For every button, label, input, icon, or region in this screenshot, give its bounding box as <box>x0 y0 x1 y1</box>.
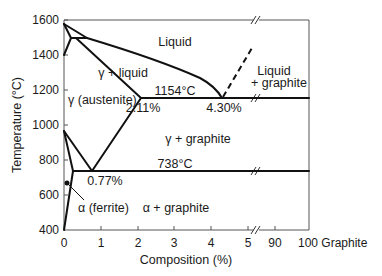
annotation-eutectoid-temp: 738°C <box>158 157 193 171</box>
annotation-max-solubility: 2.11% <box>126 101 161 115</box>
label-liquid-graphite-2: + graphite <box>251 76 307 90</box>
y-tick-1000: 1000 <box>32 118 59 132</box>
y-axis-labels: 1600 1400 1200 1000 800 600 400 <box>32 13 59 237</box>
y-tick-1200: 1200 <box>32 83 59 97</box>
x-tick-0: 0 <box>61 236 68 250</box>
x-tick-2: 2 <box>135 236 142 250</box>
annotation-eutectic-temp: 1154°C <box>155 84 196 98</box>
x-axis-labels: 0 1 2 3 4 5 90 100 Graphite <box>61 236 368 250</box>
label-gamma-liquid: γ + liquid <box>98 66 148 80</box>
x-tick-1: 1 <box>98 236 105 250</box>
x-tick-3: 3 <box>171 236 178 250</box>
phase-boundaries <box>64 24 309 230</box>
x-axis-title: Composition (%) <box>140 253 232 267</box>
graphite-liquidus-dashed <box>223 48 252 97</box>
label-liquid: Liquid <box>158 35 191 49</box>
x-tick-100-graphite: 100 Graphite <box>298 236 368 250</box>
x-tick-4: 4 <box>208 236 215 250</box>
x-tick-90: 90 <box>268 236 282 250</box>
ferrite-solvus-line <box>64 131 73 230</box>
x-tick-5: 5 <box>245 236 252 250</box>
annotation-eutectic-comp: 4.30% <box>206 101 241 115</box>
delta-region-boundaries <box>64 24 87 55</box>
liquidus-line <box>64 24 222 98</box>
annotation-eutectoid-comp: 0.77% <box>87 174 122 188</box>
y-tick-1600: 1600 <box>32 13 59 27</box>
axis-break-marks <box>251 16 260 234</box>
x-axis-ticks <box>101 226 275 230</box>
phase-diagram: 1600 1400 1200 1000 800 600 400 0 1 2 3 … <box>0 0 382 276</box>
y-axis-title: Temperature (°C) <box>10 77 24 173</box>
y-tick-600: 600 <box>39 188 59 202</box>
y-tick-800: 800 <box>39 153 59 167</box>
y-tick-400: 400 <box>39 223 59 237</box>
y-tick-1400: 1400 <box>32 48 59 62</box>
label-gamma-graphite: γ + graphite <box>165 132 231 146</box>
plot-frame <box>64 20 309 230</box>
label-ferrite: α (ferrite) <box>78 201 129 215</box>
label-alpha-graphite: α + graphite <box>143 201 210 215</box>
